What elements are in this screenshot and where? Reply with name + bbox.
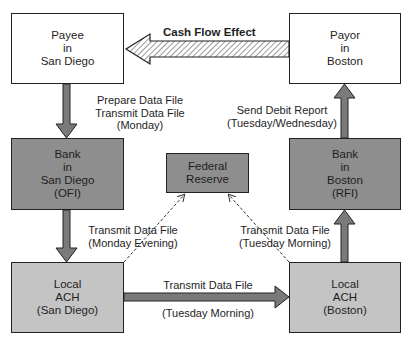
local-ach-san-diego-box: Local ACH (San Diego) <box>11 262 124 333</box>
bank-san-diego-box: Bank in San Diego (OFI) <box>11 138 124 210</box>
bank-boston-line-1: Bank <box>332 148 358 161</box>
payee-line-3: San Diego <box>41 55 95 68</box>
bank-boston-line-4: (RFI) <box>332 187 358 200</box>
payor-line-3: Boston <box>327 55 363 68</box>
bank-to-ach-sd-label: Transmit Data File (Monday Evening) <box>78 224 188 249</box>
payee-to-bank-label: Prepare Data File Transmit Data File (Mo… <box>80 94 200 132</box>
payor-line-1: Payor <box>330 29 360 42</box>
bank-sd-line-2: in <box>63 161 72 174</box>
ach-boston-to-bank-label: Transmit Data File (Tuesday Morning) <box>230 224 340 249</box>
payee-to-bank-line-2: Transmit Data File <box>80 107 200 120</box>
local-ach-boston-box: Local ACH (Boston) <box>289 262 401 333</box>
cash-flow-label: Cash Flow Effect <box>163 26 256 39</box>
bank-to-payor-line-1: Send Debit Report <box>222 104 342 117</box>
payee-to-bank-line-3: (Monday) <box>80 119 200 132</box>
bank-to-payor-line-2: (Tuesday/Wednesday) <box>222 117 342 130</box>
federal-reserve-box: Federal Reserve <box>166 153 249 193</box>
fed-line-1: Federal <box>188 160 227 173</box>
ach-flow-diagram: Payee in San Diego Payor in Boston Bank … <box>0 0 415 342</box>
ach-boston-to-bank-line-2: (Tuesday Morning) <box>230 237 340 250</box>
ach-boston-to-bank-line-1: Transmit Data File <box>230 224 340 237</box>
bank-sd-line-3: San Diego <box>41 174 95 187</box>
bank-to-ach-sd-arrow <box>56 210 77 262</box>
fed-line-2: Reserve <box>186 173 229 186</box>
cash-flow-arrow <box>126 34 289 64</box>
ach-sd-line-3: (San Diego) <box>37 304 98 317</box>
payor-line-2: in <box>341 42 350 55</box>
ach-boston-line-2: ACH <box>333 291 357 304</box>
bank-sd-line-4: (OFI) <box>54 187 81 200</box>
payee-line-2: in <box>63 42 72 55</box>
ach-boston-line-1: Local <box>331 278 359 291</box>
ach-to-ach-top-label: Transmit Data File <box>148 279 268 292</box>
ach-sd-line-1: Local <box>54 278 82 291</box>
bank-boston-line-2: in <box>341 161 350 174</box>
bank-boston-box: Bank in Boston (RFI) <box>289 138 401 210</box>
ach-to-ach-bottom-label: (Tuesday Morning) <box>148 307 268 320</box>
ach-boston-line-3: (Boston) <box>323 304 366 317</box>
bank-to-payor-label: Send Debit Report (Tuesday/Wednesday) <box>222 104 342 129</box>
bank-to-ach-sd-line-2: (Monday Evening) <box>78 237 188 250</box>
bank-sd-line-1: Bank <box>54 148 80 161</box>
ach-sd-line-2: ACH <box>55 291 79 304</box>
payee-box: Payee in San Diego <box>11 13 124 84</box>
payee-line-1: Payee <box>51 29 84 42</box>
payee-to-bank-arrow <box>56 84 77 138</box>
payor-box: Payor in Boston <box>289 13 401 84</box>
payee-to-bank-line-1: Prepare Data File <box>80 94 200 107</box>
bank-to-ach-sd-line-1: Transmit Data File <box>78 224 188 237</box>
bank-boston-line-3: Boston <box>327 174 363 187</box>
